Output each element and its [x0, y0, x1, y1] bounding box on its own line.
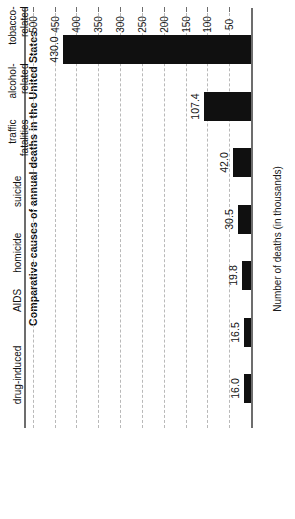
bar-value-label: 19.8: [227, 255, 240, 297]
bar: [242, 261, 251, 290]
value-axis-title: Number of deaths (in thousands): [271, 154, 285, 324]
bar: [233, 148, 251, 177]
value-axis-line: [251, 8, 253, 428]
axis-tick-label: 250: [135, 5, 148, 45]
bar: [244, 318, 251, 347]
axis-tick-label: 150: [179, 5, 192, 45]
axis-tick-label: 450: [48, 5, 61, 45]
axis-tick-label: 300: [114, 5, 127, 45]
bar-value-label: 16.0: [229, 368, 242, 410]
gridline: [120, 8, 121, 428]
gridline: [55, 8, 56, 428]
axis-tick-label: 200: [157, 5, 170, 45]
gridline: [142, 8, 143, 428]
category-label: drug-induced: [12, 346, 24, 432]
gridline: [98, 8, 99, 428]
gridline: [33, 8, 34, 428]
bar: [244, 374, 251, 403]
bar: [238, 205, 251, 234]
gridline: [207, 8, 208, 428]
gridline: [186, 8, 187, 428]
gridline: [76, 8, 77, 428]
bar-value-label: 16.5: [228, 311, 241, 353]
axis-tick-label: 100: [201, 5, 214, 45]
axis-tick-label: 400: [70, 5, 83, 45]
chart-figure: Comparative causes of annual deaths in t…: [0, 0, 295, 519]
axis-tick-label: 50: [223, 5, 236, 45]
bar-value-label: 42.0: [217, 142, 230, 184]
bar-value-label: 107.4: [189, 85, 202, 127]
axis-tick-label: 350: [92, 5, 105, 45]
bar: [204, 92, 251, 121]
bar-value-label: 30.5: [222, 198, 235, 240]
gridline: [164, 8, 165, 428]
